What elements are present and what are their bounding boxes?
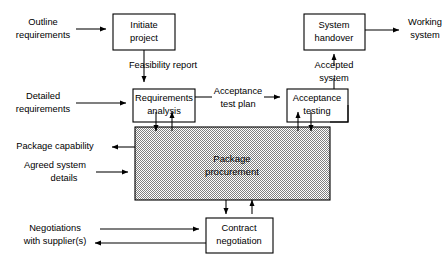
acceptance-test-plan-line1: Acceptance — [214, 86, 263, 96]
node-package-procurement: Package procurement — [135, 127, 330, 200]
initiate-project-label-line2: project — [130, 33, 158, 43]
requirements-analysis-label-line2: analysis — [147, 106, 181, 116]
package-procurement-label-line1: Package — [213, 153, 250, 164]
label-accepted-system: Accepted system — [315, 60, 354, 83]
feasibility-report-line1: Feasibility report — [129, 60, 198, 70]
initiate-project-label-line1: Initiate — [130, 20, 157, 30]
node-requirements-analysis: Requirements analysis — [133, 89, 195, 122]
label-acceptance-test-plan: Acceptance test plan — [214, 86, 263, 109]
node-contract-negotiation: Contract negotiation — [206, 218, 273, 253]
agreed-system-details-line1: Agreed system — [24, 160, 86, 170]
negotiations-line1: Negotiations — [29, 223, 81, 233]
package-capability-line1: Package capability — [16, 141, 94, 151]
node-acceptance-testing: Acceptance testing — [287, 89, 348, 122]
label-feasibility-report: Feasibility report — [129, 60, 198, 70]
diagram-canvas: Package procurement Initiate project Req… — [0, 0, 447, 264]
contract-negotiation-label-line1: Contract — [221, 223, 257, 233]
label-package-capability: Package capability — [16, 141, 94, 151]
acceptance-testing-label-line2: testing — [303, 106, 330, 116]
package-procurement-label-line2: procurement — [205, 166, 259, 177]
node-initiate-project: Initiate project — [113, 14, 175, 50]
label-outline-requirements: Outline requirements — [16, 17, 71, 40]
working-system-line1: Working — [408, 17, 442, 27]
contract-negotiation-label-line2: negotiation — [216, 236, 262, 246]
acceptance-testing-label-line1: Acceptance — [293, 93, 342, 103]
system-handover-label-line1: System — [319, 20, 350, 30]
system-handover-label-line2: handover — [315, 33, 354, 43]
outline-requirements-line1: Outline — [28, 17, 57, 27]
agreed-system-details-line2: details — [51, 173, 78, 183]
detailed-requirements-line1: Detailed — [26, 91, 60, 101]
process-diagram: Package procurement Initiate project Req… — [0, 0, 447, 264]
node-system-handover: System handover — [304, 14, 365, 50]
detailed-requirements-line2: requirements — [16, 104, 71, 114]
label-detailed-requirements: Detailed requirements — [16, 91, 71, 114]
working-system-line2: system — [410, 30, 440, 40]
outline-requirements-line2: requirements — [16, 30, 71, 40]
acceptance-test-plan-line2: test plan — [220, 99, 255, 109]
negotiations-line2: with supplier(s) — [23, 236, 87, 246]
label-agreed-system-details: Agreed system details — [24, 160, 86, 183]
accepted-system-line2: system — [319, 73, 349, 83]
accepted-system-line1: Accepted — [315, 60, 354, 70]
label-negotiations-with-suppliers: Negotiations with supplier(s) — [23, 223, 87, 246]
label-working-system: Working system — [408, 17, 442, 40]
requirements-analysis-label-line1: Requirements — [135, 93, 193, 103]
